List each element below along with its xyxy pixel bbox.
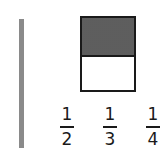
denominator: 3 bbox=[100, 131, 120, 148]
fraction-bar bbox=[103, 126, 117, 128]
fraction-option-half[interactable]: 1 2 bbox=[57, 106, 77, 148]
vertical-divider-bar bbox=[19, 19, 24, 148]
fraction-model-box bbox=[80, 16, 136, 92]
fraction-option-quarter[interactable]: 1 4 bbox=[143, 106, 163, 148]
fraction-bar bbox=[60, 126, 74, 128]
numerator: 1 bbox=[143, 106, 163, 123]
denominator: 4 bbox=[143, 131, 163, 148]
denominator: 2 bbox=[57, 131, 77, 148]
fraction-bar bbox=[146, 126, 160, 128]
shaded-cell bbox=[82, 18, 134, 57]
numerator: 1 bbox=[57, 106, 77, 123]
fraction-option-third[interactable]: 1 3 bbox=[100, 106, 120, 148]
numerator: 1 bbox=[100, 106, 120, 123]
